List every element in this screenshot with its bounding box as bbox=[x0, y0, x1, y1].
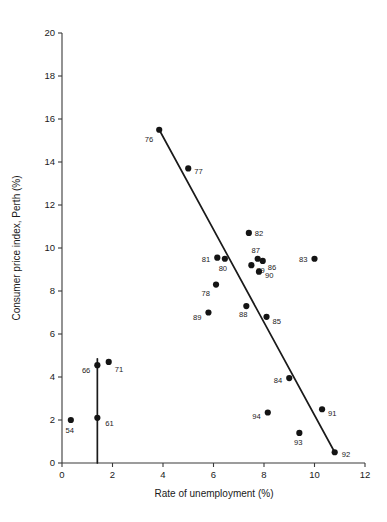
point-label-66: 66 bbox=[82, 366, 90, 375]
point-label-77: 77 bbox=[194, 167, 202, 176]
data-point-85 bbox=[263, 314, 269, 320]
point-label-92: 92 bbox=[342, 450, 350, 459]
point-label-78: 78 bbox=[202, 289, 210, 298]
y-axis: 02468101214161820 bbox=[44, 27, 62, 468]
x-tick-label-4: 4 bbox=[160, 469, 165, 480]
point-label-83: 83 bbox=[299, 255, 307, 264]
point-label-94: 94 bbox=[252, 412, 260, 421]
data-point-91 bbox=[319, 406, 325, 412]
point-label-84: 84 bbox=[274, 376, 282, 385]
data-point-61 bbox=[94, 415, 100, 421]
point-label-76: 76 bbox=[145, 135, 153, 144]
y-axis-title: Consumer price index, Perth (%) bbox=[11, 175, 22, 320]
y-tick-label-8: 8 bbox=[50, 285, 55, 296]
data-point-92 bbox=[332, 449, 338, 455]
data-point-71 bbox=[106, 359, 112, 365]
y-tick-label-20: 20 bbox=[44, 27, 55, 38]
main-trend-line bbox=[159, 130, 334, 453]
x-tick-label-12: 12 bbox=[360, 469, 371, 480]
data-points: 5461667176777879808182838485868788899091… bbox=[66, 127, 351, 460]
plot-canvas: 02468101214161820 024681012 Rate of unem… bbox=[0, 0, 387, 522]
y-tick-label-0: 0 bbox=[50, 457, 55, 468]
data-point-84 bbox=[286, 375, 292, 381]
point-label-80: 80 bbox=[219, 264, 227, 273]
point-label-71: 71 bbox=[115, 365, 123, 374]
point-label-85: 85 bbox=[273, 317, 281, 326]
data-point-54 bbox=[68, 417, 74, 423]
y-tick-label-14: 14 bbox=[44, 156, 55, 167]
data-point-88 bbox=[243, 303, 249, 309]
y-tick-label-6: 6 bbox=[50, 328, 55, 339]
data-point-83 bbox=[311, 256, 317, 262]
data-point-78 bbox=[213, 281, 219, 287]
data-point-81 bbox=[214, 255, 220, 261]
y-tick-label-18: 18 bbox=[44, 70, 55, 81]
point-label-87: 87 bbox=[251, 246, 259, 255]
trend-lines bbox=[97, 130, 334, 463]
y-tick-label-4: 4 bbox=[50, 371, 55, 382]
data-point-87 bbox=[255, 256, 261, 262]
point-label-91: 91 bbox=[328, 409, 336, 418]
x-tick-label-10: 10 bbox=[309, 469, 320, 480]
data-point-77 bbox=[185, 165, 191, 171]
y-tick-label-12: 12 bbox=[44, 199, 55, 210]
y-tick-label-16: 16 bbox=[44, 113, 55, 124]
point-label-93: 93 bbox=[294, 438, 302, 447]
x-tick-label-8: 8 bbox=[261, 469, 266, 480]
y-tick-label-10: 10 bbox=[44, 242, 55, 253]
x-tick-label-6: 6 bbox=[211, 469, 216, 480]
x-axis-title: Rate of unemployment (%) bbox=[155, 488, 274, 499]
point-label-81: 81 bbox=[202, 255, 210, 264]
point-label-61: 61 bbox=[105, 419, 113, 428]
data-point-79 bbox=[248, 262, 254, 268]
data-point-90 bbox=[256, 269, 262, 275]
point-label-89: 89 bbox=[193, 313, 201, 322]
point-label-54: 54 bbox=[66, 426, 74, 435]
data-point-89 bbox=[205, 309, 211, 315]
data-point-94 bbox=[265, 409, 271, 415]
data-point-66 bbox=[94, 362, 100, 368]
scatter-plot-figure: 02468101214161820 024681012 Rate of unem… bbox=[0, 0, 387, 522]
y-tick-label-2: 2 bbox=[50, 414, 55, 425]
data-point-93 bbox=[296, 430, 302, 436]
point-label-88: 88 bbox=[239, 310, 247, 319]
point-label-82: 82 bbox=[255, 229, 263, 238]
x-tick-label-0: 0 bbox=[59, 469, 64, 480]
x-tick-label-2: 2 bbox=[110, 469, 115, 480]
data-point-76 bbox=[156, 127, 162, 133]
point-label-90: 90 bbox=[265, 271, 273, 280]
data-point-82 bbox=[246, 230, 252, 236]
x-axis: 024681012 bbox=[59, 463, 370, 480]
data-point-80 bbox=[222, 256, 228, 262]
